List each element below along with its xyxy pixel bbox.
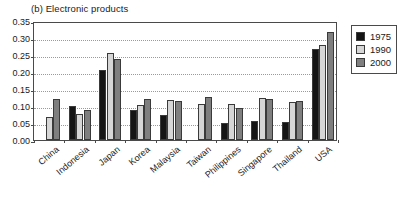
- bar-malaysia-2000: [175, 101, 182, 140]
- legend-label-1975: 1975: [370, 32, 391, 42]
- bar-korea-1975: [130, 110, 137, 140]
- x-axis-tick-mark: [216, 140, 217, 143]
- y-axis-tick-mark: [31, 57, 34, 58]
- bar-philippines-1975: [221, 123, 228, 140]
- x-axis-label-philippines: Philippines: [204, 145, 243, 180]
- legend-item-2000: 2000: [356, 56, 391, 69]
- bar-philippines-1990: [228, 104, 235, 140]
- bar-indonesia-2000: [84, 110, 91, 140]
- y-axis-tick-mark: [31, 91, 34, 92]
- x-axis-tick-mark: [34, 140, 35, 143]
- bar-philippines-2000: [236, 108, 243, 140]
- y-axis-tick-mark: [31, 23, 34, 24]
- bar-indonesia-1990: [76, 114, 83, 140]
- bar-usa-1975: [312, 49, 319, 140]
- legend-swatch-1975-icon: [356, 32, 365, 41]
- bar-taiwan-2000: [205, 97, 212, 140]
- x-axis-label-china: China: [37, 145, 61, 167]
- x-axis-label-japan: Japan: [97, 145, 122, 168]
- bar-indonesia-1975: [69, 106, 76, 140]
- x-axis-tick-mark: [338, 140, 339, 143]
- x-axis-label-malaysia: Malaysia: [149, 145, 182, 175]
- x-axis-label-singapore: Singapore: [236, 145, 273, 178]
- bar-china-1990: [46, 117, 53, 140]
- chart-figure: (b) Electronic products 0.000.050.100.15…: [0, 0, 413, 197]
- x-axis-tick-mark: [277, 140, 278, 143]
- chart-legend: 1975 1990 2000: [351, 25, 397, 74]
- x-axis-tick-mark: [95, 140, 96, 143]
- bar-singapore-1990: [259, 98, 266, 141]
- bar-japan-1990: [107, 53, 114, 140]
- legend-item-1990: 1990: [356, 43, 391, 56]
- x-axis-label-indonesia: Indonesia: [55, 145, 91, 177]
- bar-series-layer: [34, 23, 336, 140]
- bar-usa-1990: [319, 45, 326, 140]
- bar-malaysia-1990: [167, 100, 174, 140]
- bar-japan-2000: [114, 59, 121, 140]
- y-axis-tick-label: 0.05: [12, 120, 30, 129]
- plot-area: [33, 22, 337, 141]
- x-axis-tick-mark: [247, 140, 248, 143]
- bar-korea-2000: [144, 99, 151, 140]
- x-axis-label-korea: Korea: [128, 145, 152, 167]
- bar-taiwan-1990: [198, 104, 205, 140]
- x-axis-tick-mark: [156, 140, 157, 143]
- x-axis-label-usa: USA: [314, 145, 334, 164]
- y-axis-tick-mark: [31, 125, 34, 126]
- x-axis-tick-mark: [125, 140, 126, 143]
- legend-swatch-1990-icon: [356, 45, 365, 54]
- y-axis-tick-label: 0.10: [12, 103, 30, 112]
- y-axis-tick-label: 0.00: [12, 137, 30, 146]
- x-axis-tick-mark: [64, 140, 65, 143]
- y-axis-tick-label: 0.35: [12, 18, 30, 27]
- y-axis-tick-label: 0.15: [12, 86, 30, 95]
- bar-japan-1975: [99, 70, 106, 140]
- legend-swatch-2000-icon: [356, 58, 365, 67]
- bar-thailand-1990: [289, 102, 296, 140]
- y-axis-tick-mark: [31, 108, 34, 109]
- bar-singapore-1975: [251, 121, 258, 140]
- legend-item-1975: 1975: [356, 30, 391, 43]
- x-axis-tick-mark: [186, 140, 187, 143]
- x-axis-tick-mark: [308, 140, 309, 143]
- y-axis-tick-mark: [31, 74, 34, 75]
- bar-china-2000: [53, 99, 60, 140]
- y-axis-tick-label: 0.20: [12, 69, 30, 78]
- y-axis-tick-mark: [31, 142, 34, 143]
- y-axis-tick-mark: [31, 40, 34, 41]
- chart-title: (b) Electronic products: [31, 3, 128, 14]
- y-axis-tick-label: 0.30: [12, 35, 30, 44]
- x-axis-label-thailand: Thailand: [272, 145, 304, 174]
- legend-label-2000: 2000: [370, 58, 391, 68]
- bar-usa-2000: [327, 32, 334, 140]
- x-axis-label-taiwan: Taiwan: [185, 145, 212, 170]
- bar-thailand-2000: [296, 101, 303, 140]
- bar-singapore-2000: [266, 99, 273, 140]
- y-axis-tick-label: 0.25: [12, 52, 30, 61]
- bar-korea-1990: [137, 105, 144, 140]
- bar-malaysia-1975: [160, 115, 167, 140]
- bar-thailand-1975: [282, 122, 289, 140]
- y-axis-tick-labels: 0.000.050.100.150.200.250.300.35: [0, 22, 30, 141]
- legend-label-1990: 1990: [370, 45, 391, 55]
